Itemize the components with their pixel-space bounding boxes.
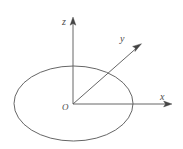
coordinate-axes-figure: z y x O: [0, 0, 183, 149]
x-axis-label: x: [160, 92, 164, 102]
y-axis-label: y: [120, 34, 124, 44]
axes-drawing-canvas: [0, 0, 183, 149]
origin-label: O: [62, 103, 69, 112]
y-axis-line: [73, 47, 138, 104]
z-axis-label: z: [62, 17, 66, 27]
